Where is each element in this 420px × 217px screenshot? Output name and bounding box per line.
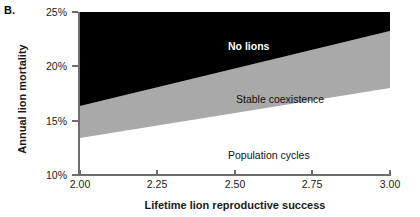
x-axis-title: Lifetime lion reproductive success [80, 199, 390, 211]
region-label-stable-coexistence: Stable coexistence [236, 93, 324, 105]
panel-label: B. [4, 4, 15, 16]
x-tick-label-2-75: 2.75 [287, 178, 337, 190]
x-tick-label-2-50: 2.50 [210, 178, 260, 190]
y-tick-25 [72, 11, 78, 13]
y-tick-label-20: 20% [27, 60, 67, 72]
region-label-no-lions: No lions [228, 40, 269, 52]
y-axis-title: Annual lion mortality [16, 14, 28, 184]
y-tick-label-15: 15% [27, 115, 67, 127]
y-axis-line [78, 12, 80, 176]
y-tick-label-25: 25% [27, 6, 67, 18]
x-tick-3-00 [389, 170, 391, 176]
x-tick-2-25 [156, 170, 158, 176]
x-tick-label-3-00: 3.00 [365, 178, 415, 190]
x-tick-2-00 [79, 170, 81, 176]
figure-panel-b: B. Annual lion mortality Lifetime lion r… [0, 0, 420, 217]
plot-area: No lions Stable coexistence Population c… [80, 12, 390, 175]
x-tick-label-2-25: 2.25 [132, 178, 182, 190]
y-tick-15 [72, 120, 78, 122]
x-tick-2-50 [234, 170, 236, 176]
region-label-population-cycles: Population cycles [228, 149, 310, 161]
x-tick-2-75 [311, 170, 313, 176]
y-tick-10 [72, 174, 78, 176]
y-tick-20 [72, 65, 78, 67]
x-tick-label-2-00: 2.00 [55, 178, 105, 190]
